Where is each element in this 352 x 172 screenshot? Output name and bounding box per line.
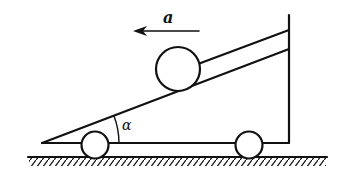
angle-arc — [114, 116, 119, 143]
physics-diagram: a α — [0, 0, 352, 172]
wheel-left — [82, 132, 109, 159]
angle-label: α — [122, 117, 131, 133]
diagram-canvas — [0, 0, 352, 172]
ground — [28, 157, 327, 166]
acceleration-label: a — [163, 8, 173, 27]
ball — [156, 47, 200, 91]
support-rod — [198, 30, 289, 64]
wheel-right — [236, 132, 263, 159]
